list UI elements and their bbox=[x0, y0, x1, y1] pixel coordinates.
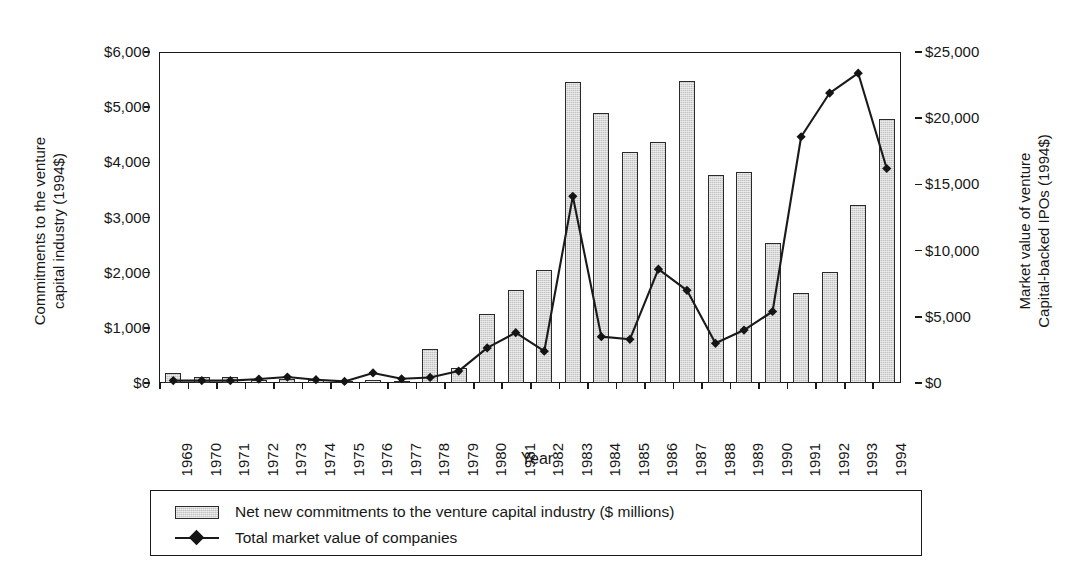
y-axis-right-ticks: $0$5,000$10,000$15,000$20,000$25,000 bbox=[911, 52, 1001, 383]
x-tick-mark bbox=[701, 383, 703, 389]
line-marker-diamond bbox=[197, 376, 206, 385]
x-tick-mark bbox=[302, 383, 304, 389]
line-path bbox=[173, 73, 886, 381]
y-tick-mark-left bbox=[144, 162, 150, 164]
x-tick-label: 1989 bbox=[750, 443, 765, 476]
y-tick-mark-right bbox=[915, 382, 922, 384]
line-marker-diamond bbox=[426, 373, 435, 382]
x-tick-mark bbox=[673, 383, 675, 389]
line-series bbox=[159, 52, 901, 383]
x-tick-mark bbox=[730, 383, 732, 389]
x-tick-label: 1981 bbox=[522, 443, 537, 476]
plot-area bbox=[159, 52, 901, 383]
line-marker-diamond bbox=[568, 192, 577, 201]
y-tick-mark-left bbox=[144, 327, 150, 329]
x-tick-label: 1983 bbox=[579, 443, 594, 476]
x-tick-mark bbox=[616, 383, 618, 389]
x-tick-label: 1969 bbox=[179, 443, 194, 476]
y-tick-mark-right bbox=[915, 316, 922, 318]
x-axis-ticks: 1969197019711972197319741975197619771978… bbox=[159, 389, 901, 449]
x-tick-label: 1973 bbox=[293, 443, 308, 476]
x-tick-mark bbox=[530, 383, 532, 389]
y-tick-mark-left bbox=[144, 106, 150, 108]
x-tick-label: 1974 bbox=[322, 443, 337, 476]
y-tick-label-right: $25,000 bbox=[925, 44, 979, 59]
legend-bar-swatch-icon bbox=[173, 500, 223, 524]
line-marker-diamond bbox=[397, 374, 406, 383]
y-tick-mark-left bbox=[144, 51, 150, 53]
x-tick-label: 1976 bbox=[379, 443, 394, 476]
y-tick-mark-right bbox=[915, 117, 922, 119]
x-tick-label: 1994 bbox=[893, 443, 908, 476]
x-tick-mark bbox=[444, 383, 446, 389]
y-tick-label-right: $10,000 bbox=[925, 243, 979, 258]
y-tick-label-right: $20,000 bbox=[925, 110, 979, 125]
x-tick-label: 1986 bbox=[664, 443, 679, 476]
x-tick-mark bbox=[758, 383, 760, 389]
x-tick-label: 1982 bbox=[550, 443, 565, 476]
legend-item-bars: Net new commitments to the venture capit… bbox=[173, 500, 921, 524]
x-tick-label: 1984 bbox=[607, 443, 622, 476]
line-marker-diamond bbox=[311, 375, 320, 384]
line-marker-diamond bbox=[226, 376, 235, 385]
x-tick-label: 1977 bbox=[408, 443, 423, 476]
x-tick-mark bbox=[815, 383, 817, 389]
x-tick-label: 1978 bbox=[436, 443, 451, 476]
legend-line-marker-icon bbox=[173, 526, 223, 550]
line-marker-diamond bbox=[711, 339, 720, 348]
y-tick-mark-right bbox=[915, 51, 922, 53]
y-tick-mark-left bbox=[144, 217, 150, 219]
x-tick-mark bbox=[587, 383, 589, 389]
x-tick-mark bbox=[273, 383, 275, 389]
x-tick-label: 1971 bbox=[236, 443, 251, 476]
y-tick-label-right: $5,000 bbox=[925, 309, 971, 324]
x-tick-label: 1991 bbox=[807, 443, 822, 476]
x-tick-mark bbox=[644, 383, 646, 389]
line-marker-diamond bbox=[368, 368, 377, 377]
x-tick-mark bbox=[387, 383, 389, 389]
x-tick-mark bbox=[330, 383, 332, 389]
x-tick-mark bbox=[872, 383, 874, 389]
line-marker-diamond bbox=[625, 335, 634, 344]
x-tick-label: 1970 bbox=[208, 443, 223, 476]
y-axis-left-title: Commitments to the venture capital indus… bbox=[30, 61, 68, 401]
line-marker-diamond bbox=[340, 377, 349, 386]
legend-item-line: Total market value of companies bbox=[173, 526, 921, 550]
x-tick-label: 1985 bbox=[636, 443, 651, 476]
y-tick-label-right: $15,000 bbox=[925, 176, 979, 191]
x-tick-mark bbox=[359, 383, 361, 389]
y-tick-mark-right bbox=[915, 184, 922, 186]
x-tick-label: 1979 bbox=[465, 443, 480, 476]
x-tick-mark bbox=[473, 383, 475, 389]
x-tick-label: 1993 bbox=[864, 443, 879, 476]
y-tick-mark-left bbox=[144, 272, 150, 274]
line-marker-diamond bbox=[169, 376, 178, 385]
line-marker-diamond bbox=[254, 374, 263, 383]
x-tick-mark bbox=[245, 383, 247, 389]
x-tick-label: 1972 bbox=[265, 443, 280, 476]
y-tick-mark-left bbox=[144, 382, 150, 384]
x-tick-label: 1975 bbox=[351, 443, 366, 476]
y-axis-left-ticks: $0$1,000$2,000$3,000$4,000$5,000$6,000 bbox=[72, 52, 150, 383]
legend-label-line: Total market value of companies bbox=[235, 529, 457, 547]
chart-legend: Net new commitments to the venture capit… bbox=[150, 490, 922, 556]
legend-label-bars: Net new commitments to the venture capit… bbox=[235, 503, 674, 521]
y-tick-mark-right bbox=[915, 250, 922, 252]
line-marker-diamond bbox=[597, 332, 606, 341]
x-tick-mark bbox=[416, 383, 418, 389]
line-marker-diamond bbox=[283, 372, 292, 381]
x-tick-mark bbox=[216, 383, 218, 389]
x-tick-mark bbox=[159, 383, 161, 389]
x-tick-label: 1987 bbox=[693, 443, 708, 476]
line-marker-diamond bbox=[882, 164, 891, 173]
x-tick-label: 1988 bbox=[722, 443, 737, 476]
x-tick-mark bbox=[559, 383, 561, 389]
x-tick-mark bbox=[501, 383, 503, 389]
x-tick-label: 1990 bbox=[779, 443, 794, 476]
x-tick-mark bbox=[188, 383, 190, 389]
chart-figure: Commitments to the venture capital indus… bbox=[0, 0, 1074, 584]
y-tick-label-right: $0 bbox=[925, 375, 942, 390]
x-tick-label: 1980 bbox=[493, 443, 508, 476]
x-tick-mark bbox=[844, 383, 846, 389]
y-axis-right-title: Market value of venture Capital-backed I… bbox=[1015, 61, 1053, 401]
